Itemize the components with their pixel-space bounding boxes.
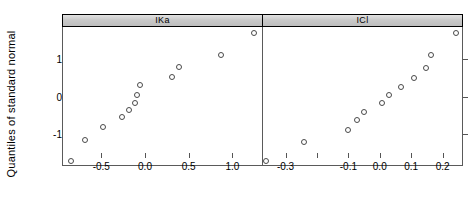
qq-plot-figure: Quantiles of standard normal -101 IKa IC… xyxy=(0,0,475,208)
right-edge-tick-mark xyxy=(463,97,468,98)
right-edge-tick-group xyxy=(463,14,469,166)
x-tick-mark xyxy=(348,153,349,158)
data-point xyxy=(176,64,182,70)
x-tick-mark xyxy=(317,153,318,158)
x-tick-label: -0.1 xyxy=(340,161,357,172)
data-point xyxy=(423,65,429,71)
panel-strip-label-ika: IKa xyxy=(155,16,169,25)
x-tick-mark xyxy=(443,153,444,158)
x-tick-label: 0.0 xyxy=(138,161,152,172)
x-tick-label: 0.1 xyxy=(404,161,418,172)
y-tick-label: 0 xyxy=(40,91,62,102)
panel-strip-label-icl: ICl xyxy=(357,16,369,25)
x-tick-mark xyxy=(189,153,190,158)
data-point xyxy=(453,30,459,36)
data-point xyxy=(361,109,367,115)
x-tick-label: -0.5 xyxy=(93,161,110,172)
y-axis-title: Quantiles of standard normal xyxy=(0,0,22,208)
x-tick-label: 0.0 xyxy=(373,161,387,172)
data-point xyxy=(386,92,392,98)
x-tick-mark xyxy=(286,153,287,158)
x-tick-mark xyxy=(145,153,146,158)
x-tick-mark xyxy=(232,153,233,158)
x-tick-mark xyxy=(101,153,102,158)
right-edge-tick-mark xyxy=(463,59,468,60)
plot-area-ika xyxy=(62,27,263,166)
y-tick-label: 1 xyxy=(40,53,62,64)
panel-icl: ICl xyxy=(262,14,463,166)
data-point xyxy=(119,114,125,120)
data-point xyxy=(301,139,307,145)
y-tick-label: -1 xyxy=(40,129,62,140)
x-tick-label: 0.5 xyxy=(182,161,196,172)
x-tick-label: 0.2 xyxy=(436,161,450,172)
data-point xyxy=(428,52,434,58)
data-point xyxy=(126,107,132,113)
data-point xyxy=(100,124,106,130)
data-point xyxy=(354,117,360,123)
panel-ika: IKa xyxy=(62,14,263,166)
data-point xyxy=(379,100,385,106)
plot-area-icl xyxy=(262,27,463,166)
data-point xyxy=(398,84,404,90)
panel-strip-header-icl: ICl xyxy=(262,14,463,27)
data-point xyxy=(137,82,143,88)
x-tick-label: 1.0 xyxy=(225,161,239,172)
data-point xyxy=(345,127,351,133)
x-tick-label: -0.3 xyxy=(277,161,294,172)
x-tick-mark xyxy=(411,153,412,158)
x-axis-icl: -0.3-0.10.00.10.2 xyxy=(262,153,463,179)
data-point xyxy=(132,100,138,106)
data-point xyxy=(169,74,175,80)
data-point xyxy=(82,137,88,143)
x-tick-mark xyxy=(380,153,381,158)
panel-strip-header-ika: IKa xyxy=(62,14,263,27)
data-point xyxy=(218,52,224,58)
data-point xyxy=(251,30,257,36)
y-axis: -101 xyxy=(36,0,62,208)
right-edge-tick-mark xyxy=(463,134,468,135)
data-point xyxy=(411,75,417,81)
data-point xyxy=(134,92,140,98)
x-axis-ika: -0.50.00.51.0 xyxy=(62,153,263,179)
